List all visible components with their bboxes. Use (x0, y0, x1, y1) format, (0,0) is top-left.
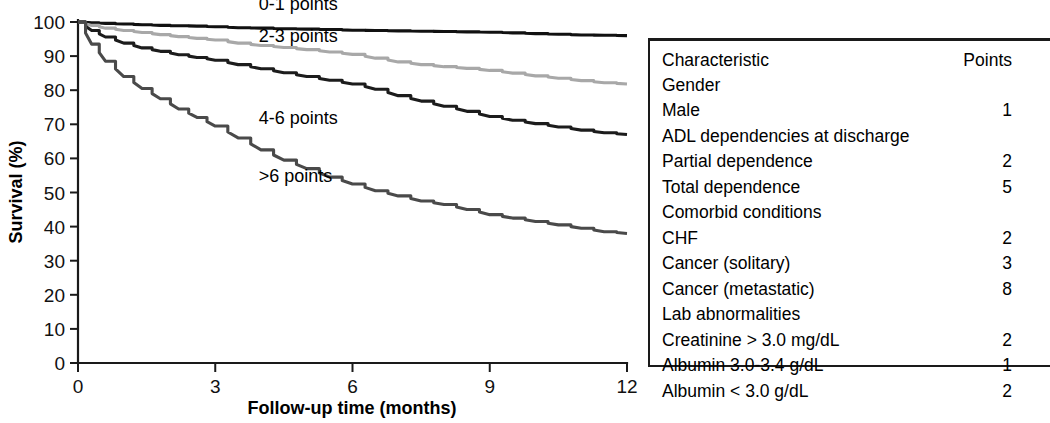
row-points (950, 73, 1050, 99)
table-row: ADL dependencies at discharge (650, 124, 1050, 150)
chart-ticks: 0102030405060708090100036912 (33, 12, 637, 397)
x-axis-title: Follow-up time (months) (248, 398, 457, 418)
chart-series-labels: 0-1 points2-3 points4-6 points>6 points (259, 0, 338, 186)
row-points: 1 (950, 353, 1050, 379)
y-tick-label-50: 50 (44, 183, 65, 204)
series-label-1: 2-3 points (259, 26, 338, 46)
row-label: Partial dependence (650, 149, 950, 175)
table-row: Gender (650, 73, 1050, 99)
survival-chart-panel: 0102030405060708090100036912 0-1 points2… (0, 0, 648, 423)
row-label: Male (650, 98, 950, 124)
score-table: Characteristic Points GenderMale1ADL dep… (650, 48, 1050, 404)
row-label: ADL dependencies at discharge (650, 124, 950, 150)
row-label: Albumin < 3.0 g/dL (650, 379, 950, 405)
table-row: Cancer (metastatic)8 (650, 277, 1050, 303)
x-tick-label-0: 0 (73, 376, 84, 397)
y-tick-label-90: 90 (44, 46, 65, 67)
axis-lines (78, 20, 627, 363)
table-row: Albumin 3.0-3.4 g/dL1 (650, 353, 1050, 379)
row-points: 5 (950, 175, 1050, 201)
header-points: Points (950, 48, 1050, 73)
y-tick-label-70: 70 (44, 114, 65, 135)
row-points (950, 200, 1050, 226)
score-table-header-row: Characteristic Points (650, 48, 1050, 73)
row-points (950, 124, 1050, 150)
table-row: Creatinine > 3.0 mg/dL2 (650, 328, 1050, 354)
table-row: Male1 (650, 98, 1050, 124)
km-curve-2 (78, 22, 627, 135)
x-tick-label-6: 6 (347, 376, 358, 397)
table-row: CHF2 (650, 226, 1050, 252)
series-label-3: >6 points (259, 166, 333, 186)
chart-curves (78, 22, 627, 233)
row-points: 1 (950, 98, 1050, 124)
x-tick-label-12: 12 (616, 376, 637, 397)
chart-axes (78, 20, 627, 363)
series-label-0: 0-1 points (259, 0, 338, 14)
y-tick-label-10: 10 (44, 319, 65, 340)
x-tick-label-3: 3 (210, 376, 221, 397)
row-points: 2 (950, 379, 1050, 405)
score-table-panel: Characteristic Points GenderMale1ADL dep… (648, 38, 1050, 367)
table-row: Cancer (solitary)3 (650, 251, 1050, 277)
series-label-2: 4-6 points (259, 108, 338, 128)
table-row: Lab abnormalities (650, 302, 1050, 328)
x-tick-label-9: 9 (484, 376, 495, 397)
y-tick-label-0: 0 (54, 353, 65, 374)
survival-chart-svg: 0102030405060708090100036912 0-1 points2… (0, 0, 648, 423)
table-row: Partial dependence2 (650, 149, 1050, 175)
y-tick-label-60: 60 (44, 148, 65, 169)
y-tick-label-80: 80 (44, 80, 65, 101)
header-characteristic: Characteristic (650, 48, 950, 73)
table-row: Total dependence5 (650, 175, 1050, 201)
row-points: 8 (950, 277, 1050, 303)
row-label: Cancer (solitary) (650, 251, 950, 277)
row-label: Total dependence (650, 175, 950, 201)
row-label: Comorbid conditions (650, 200, 950, 226)
row-label: Creatinine > 3.0 mg/dL (650, 328, 950, 354)
table-row: Albumin < 3.0 g/dL2 (650, 379, 1050, 405)
row-label: Albumin 3.0-3.4 g/dL (650, 353, 950, 379)
y-tick-label-20: 20 (44, 285, 65, 306)
row-points (950, 302, 1050, 328)
row-points: 2 (950, 226, 1050, 252)
y-tick-label-40: 40 (44, 217, 65, 238)
row-points: 2 (950, 149, 1050, 175)
row-points: 2 (950, 328, 1050, 354)
row-label: CHF (650, 226, 950, 252)
row-points: 3 (950, 251, 1050, 277)
y-tick-label-100: 100 (33, 12, 65, 33)
y-axis-title: Survival (%) (6, 140, 26, 243)
row-label: Gender (650, 73, 950, 99)
row-label: Lab abnormalities (650, 302, 950, 328)
table-row: Comorbid conditions (650, 200, 1050, 226)
row-label: Cancer (metastatic) (650, 277, 950, 303)
y-tick-label-30: 30 (44, 251, 65, 272)
